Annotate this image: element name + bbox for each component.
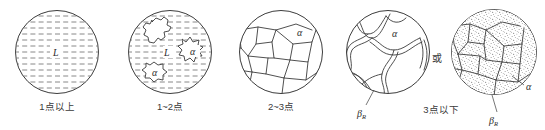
panel-3-phase-label-alpha: α [297, 27, 303, 38]
panel-4: α βR 3点以下 [346, 11, 459, 121]
microstructure-figure: L 1点以上 [0, 0, 545, 130]
panel-4-phase-label-beta: βR [356, 108, 366, 120]
panel-4-caption: 3点以下 [423, 104, 458, 115]
panel-2-phase-label-liquid: L [163, 47, 170, 58]
connector-or-label: 或 [432, 53, 442, 64]
panel-5: α βR [450, 10, 537, 128]
panel-5-stipple-fill [452, 10, 537, 95]
panel-2-phase-label-alpha-lower: α [152, 67, 158, 78]
panel-5-beta-leader-line [492, 95, 497, 112]
panel-3-caption: 2~3点 [268, 101, 294, 112]
panel-4-beta-leader-line [366, 90, 374, 105]
panel-2-phase-label-alpha-right: α [190, 46, 196, 57]
panel-2: L α α 1~2点 [127, 11, 213, 113]
panel-2-caption: 1~2点 [157, 101, 183, 112]
panel-5-phase-label-beta: βR [488, 115, 498, 127]
panel-1-caption: 1点以上 [39, 101, 74, 112]
panel-3: α 2~3点 [226, 11, 323, 113]
panel-1-phase-label-liquid: L [52, 47, 59, 58]
panel-1: L 1点以上 [14, 11, 100, 113]
panel-4-phase-label-alpha: α [392, 28, 398, 39]
panel-5-phase-label-alpha: α [526, 81, 532, 92]
panel-4-boundary [347, 11, 430, 94]
